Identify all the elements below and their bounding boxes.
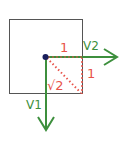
diagonal-label: √2	[47, 79, 64, 92]
right-edge-label: 1	[87, 67, 95, 80]
top-edge-label: 1	[60, 41, 68, 54]
v1-label: V1	[26, 99, 42, 111]
v2-label: V2	[83, 40, 99, 52]
diagram-canvas	[0, 0, 125, 149]
origin-point	[43, 54, 49, 60]
